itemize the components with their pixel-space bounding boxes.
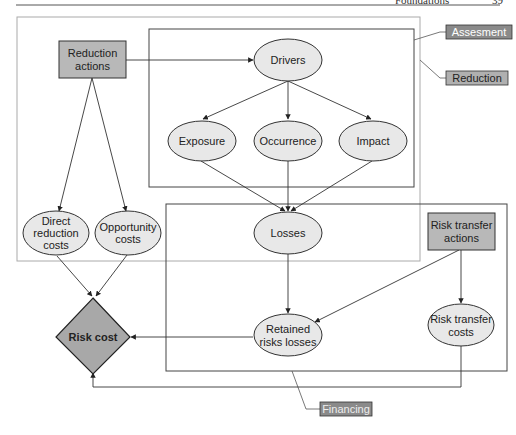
node-impact: Impact [339,121,407,161]
node-opportunity-costs: Opportunity costs [95,211,161,255]
node-losses: Losses [254,212,322,254]
reduction-label: Reduction [452,72,502,84]
assesment-label: Assesment [452,26,506,38]
edge-drivers-impact [288,81,371,119]
node-risk-transfer-costs: Risk transfer costs [428,304,494,346]
svg-text:costs: costs [43,239,69,251]
reduction-tag: Reduction [446,71,508,85]
svg-text:actions: actions [75,60,110,72]
svg-text:Drivers: Drivers [271,54,306,66]
risk-cost-diagram: Assesment Reduction Financing Reduction … [0,0,516,435]
node-exposure: Exposure [168,121,236,161]
svg-text:Exposure: Exposure [179,135,225,147]
node-occurrence: Occurrence [254,121,322,161]
svg-text:Occurrence: Occurrence [260,135,317,147]
svg-text:actions: actions [444,232,479,244]
svg-text:Risk transfer: Risk transfer [430,313,492,325]
node-drivers: Drivers [254,39,322,81]
svg-text:Risk transfer: Risk transfer [431,219,493,231]
svg-text:reduction: reduction [33,227,78,239]
svg-text:costs: costs [115,233,141,245]
svg-text:Losses: Losses [271,227,306,239]
edge-drivers-exposure [203,81,288,119]
node-risk-transfer-actions: Risk transfer actions [428,213,495,250]
svg-text:Impact: Impact [356,135,389,147]
reduction-leader [420,60,446,78]
assesment-tag: Assesment [446,25,512,39]
edge-directcosts-riskcost [57,256,92,296]
svg-text:Direct: Direct [42,215,71,227]
financing-leader [292,371,320,409]
node-reduction-actions: Reduction actions [59,41,126,78]
svg-text:costs: costs [448,326,474,338]
svg-text:Retained: Retained [266,323,310,335]
node-direct-reduction-costs: Direct reduction costs [23,211,89,255]
svg-text:risks losses: risks losses [260,336,317,348]
edge-reductionactions-opportunitycosts [92,78,126,211]
svg-text:Opportunity: Opportunity [100,221,157,233]
financing-tag: Financing [320,402,372,416]
node-retained-risks-losses: Retained risks losses [254,314,322,356]
financing-label: Financing [322,403,370,415]
edge-reductionactions-directcosts [59,78,92,211]
svg-text:Risk cost: Risk cost [69,331,118,343]
node-risk-cost: Risk cost [56,298,130,374]
svg-text:Reduction: Reduction [68,47,118,59]
assesment-leader [414,32,446,40]
